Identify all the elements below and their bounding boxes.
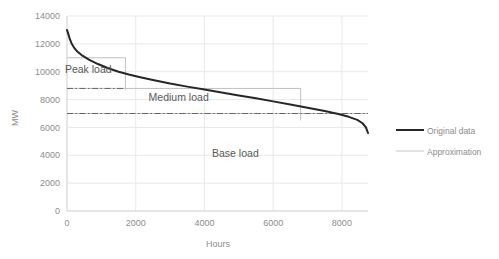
x-tick-label: 8000 [332, 218, 352, 228]
y-tick-label: 10000 [35, 67, 60, 77]
x-tick-label: 2000 [126, 218, 146, 228]
load-duration-curve-chart: 02000400060008000100001200014000 0200040… [0, 0, 499, 259]
y-tick-label: 2000 [40, 178, 60, 188]
chart-container: 02000400060008000100001200014000 0200040… [0, 0, 499, 259]
x-axis-title: Hours [206, 239, 231, 249]
y-axis-title: MW [10, 110, 20, 126]
annotation-label: Medium load [149, 91, 209, 103]
legend-label-original-data: Original data [427, 126, 475, 136]
y-tick-label: 12000 [35, 39, 60, 49]
annotation-label: Peak load [65, 63, 112, 75]
legend-label-approximation: Approximation [427, 147, 482, 157]
y-tick-label: 6000 [40, 123, 60, 133]
chart-background [0, 0, 499, 259]
x-tick-label: 4000 [194, 218, 214, 228]
y-tick-label: 8000 [40, 95, 60, 105]
y-tick-label: 4000 [40, 150, 60, 160]
annotation-label: Base load [212, 147, 259, 159]
y-tick-label: 0 [55, 206, 60, 216]
x-tick-label: 6000 [263, 218, 283, 228]
x-tick-label: 0 [64, 218, 69, 228]
y-tick-label: 14000 [35, 11, 60, 21]
